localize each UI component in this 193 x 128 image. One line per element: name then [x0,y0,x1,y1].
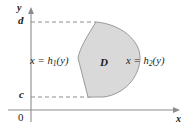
y-tick-label-d: d [18,15,24,26]
right-boundary-suffix: (y) [153,55,165,66]
right-boundary-equation: x = h2(y) [126,56,165,67]
region-label: D [100,57,108,68]
left-boundary-subscript: 1 [53,59,57,68]
y-axis-label: y [17,3,21,13]
left-boundary-equation: x = h1(y) [30,56,69,67]
left-boundary-suffix: (y) [57,55,69,66]
x-axis-label: x [176,114,181,124]
y-axis-arrowhead [28,7,34,14]
right-boundary-subscript: 2 [149,59,153,68]
left-boundary-prefix: x = h [30,55,53,66]
figure-container: y x d c 0 x = h1(y) x = h2(y) D [0,0,193,128]
right-boundary-prefix: x = h [126,55,149,66]
y-tick-label-c: c [19,89,24,100]
origin-label: 0 [18,112,24,123]
